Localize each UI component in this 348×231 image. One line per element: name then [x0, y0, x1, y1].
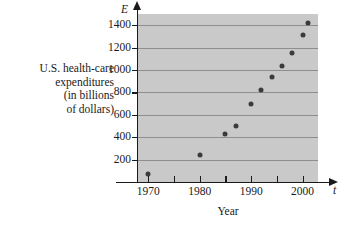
x-axis-tick — [225, 176, 226, 182]
x-axis-tick-label: 1970 — [128, 185, 168, 197]
x-axis-tick-label: 1990 — [231, 185, 271, 197]
x-axis-tick — [277, 176, 278, 182]
y-axis-tick — [132, 160, 138, 161]
y-axis-tick — [132, 115, 138, 116]
y-axis-tick-label: 800 — [97, 85, 131, 97]
y-axis-variable-label: E — [121, 3, 128, 15]
y-axis-tick — [132, 70, 138, 71]
y-axis-tick-label: 200 — [97, 153, 131, 165]
y-axis-tick-label: 1000 — [97, 63, 131, 75]
x-axis-tick — [303, 176, 304, 182]
y-axis-tick-label: 600 — [97, 108, 131, 120]
x-axis-tick — [148, 176, 149, 182]
x-axis-tick — [251, 176, 252, 182]
y-axis-tick-label: 1400 — [97, 18, 131, 30]
x-axis-tick-label: 2000 — [283, 185, 323, 197]
scatter-plot-figure: U.S. health-care expenditures (in billio… — [0, 0, 348, 231]
y-axis-tick — [132, 25, 138, 26]
y-axis-tick — [132, 48, 138, 49]
x-axis-tick — [174, 176, 175, 182]
x-axis-tick — [200, 176, 201, 182]
x-axis-variable-label: t — [333, 184, 336, 196]
y-axis-tick-label: 1200 — [97, 41, 131, 53]
y-axis-tick-label: 400 — [97, 130, 131, 142]
x-axis-title: Year — [178, 205, 278, 217]
x-axis-tick-label: 1980 — [180, 185, 220, 197]
y-axis-tick — [132, 92, 138, 93]
y-axis-tick — [132, 137, 138, 138]
